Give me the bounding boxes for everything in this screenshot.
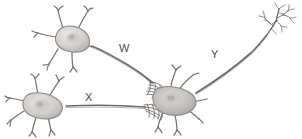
axon-label-x: X (85, 92, 92, 103)
neuron-illustration (0, 0, 302, 139)
neuron-center (153, 65, 207, 135)
axon-x-path (66, 105, 145, 108)
axon-label-w: W (119, 43, 129, 54)
axon-label-y: Y (211, 49, 218, 60)
axon-y-path (196, 36, 266, 95)
neuron-top-left (32, 6, 93, 72)
neuron-diagram-figure: W X Y (0, 0, 302, 139)
neuron-bottom-left (5, 74, 64, 137)
terminal-arbor-right (259, 3, 296, 36)
